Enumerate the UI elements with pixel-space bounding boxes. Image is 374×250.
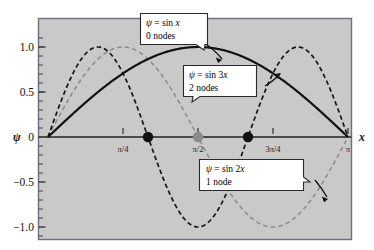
node-marker — [193, 132, 203, 142]
callout-sin-2x[interactable]: ψ = sin 2x 1 node — [200, 160, 311, 191]
y-tick-label: −1.0 — [13, 221, 34, 233]
x-axis-label: x — [358, 131, 365, 143]
callout-sin-2x-line2: 1 node — [206, 177, 232, 187]
plot-frame — [39, 19, 352, 240]
node-marker — [243, 132, 253, 142]
callout-sin-x-line2: 0 nodes — [146, 31, 176, 41]
y-axis-label: ψ — [13, 131, 21, 144]
callout-sin-3x[interactable]: ψ = sin 3x 2 nodes — [184, 66, 257, 103]
callout-sin-2x-line1: ψ = sin 2x — [206, 164, 245, 174]
y-tick-label: 0.5 — [20, 86, 35, 98]
callout-sin-3x-line2: 2 nodes — [189, 83, 219, 93]
callout-sin-x-line1: ψ = sin x — [146, 18, 180, 28]
chart-svg: 1.00.50−0.5−1.0 π/4π/23π/4π ψ = sin x 0 … — [0, 0, 374, 250]
x-tick-label: π — [346, 144, 351, 154]
x-tick-label: π/2 — [193, 144, 204, 154]
wavefunction-chart-figure: 1.00.50−0.5−1.0 π/4π/23π/4π ψ = sin x 0 … — [0, 0, 374, 250]
y-tick-label: −0.5 — [13, 176, 34, 188]
x-tick-label: π/4 — [118, 144, 130, 154]
y-tick-label: 1.0 — [20, 41, 35, 53]
callout-sin-3x-line1: ψ = sin 3x — [189, 70, 228, 80]
x-tick-label: 3π/4 — [265, 144, 281, 154]
callout-sin-x[interactable]: ψ = sin x 0 nodes — [141, 14, 208, 51]
y-tick-label: 0 — [28, 131, 34, 143]
node-marker — [143, 132, 153, 142]
